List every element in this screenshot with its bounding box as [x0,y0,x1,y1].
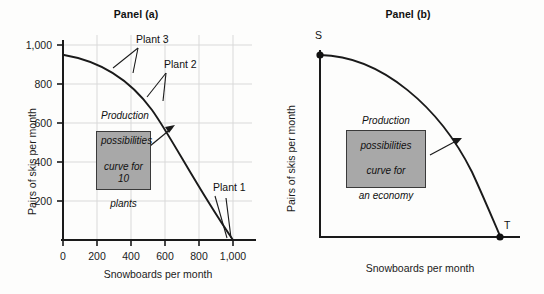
panel-a-callout-line2: possibilities [101,135,146,148]
panel-b-callout: Production possibilities curve for an ec… [346,130,426,188]
point-s-marker [316,51,323,58]
plant-2-label: Plant 2 [164,58,197,70]
panel-a-callout-line1: Production [101,110,146,123]
point-t-marker [496,233,503,240]
panel-b-callout-line1: Production [351,115,421,128]
panel-b-callout-line3: curve for [351,165,421,178]
panel-a-callout: Production possibilities curve for 10 pl… [96,131,151,190]
plant-1-label: Plant 1 [213,181,246,193]
ppc-figure: Panel (a) [0,0,544,294]
panel-b-y-axis-label: Pairs of skis per month [285,105,297,212]
panel-a-y-axis-label: Pairs of skis per month [26,108,38,215]
panel-a-callout-line4: plants [101,198,146,211]
panel-a-x-axis-label: Snowboards per month [63,268,253,280]
panel-a-callout-line3: curve for 10 [101,161,146,186]
point-s-label: S [315,29,322,41]
plant-2-pointer [147,73,166,101]
panel-a-callout-arrow [150,125,175,146]
panel-b-callout-line2: possibilities [351,140,421,153]
plant-3-label: Plant 3 [136,33,169,45]
panel-a: Panel (a) [0,0,272,294]
panel-a-ytick-1000: 1,000 [8,39,52,51]
panel-b-x-axis-label: Snowboards per month [320,262,520,274]
plant-3-pointer [113,48,138,73]
panel-b: Panel (b) S T Snowboards per month Pairs… [272,0,544,294]
panel-a-ytick-800: 800 [8,78,52,90]
grid-lines [63,35,252,240]
panel-b-callout-line4: an economy [351,190,421,203]
point-t-label: T [504,219,510,231]
panel-a-xtick-1000: 1,000 [213,250,253,262]
